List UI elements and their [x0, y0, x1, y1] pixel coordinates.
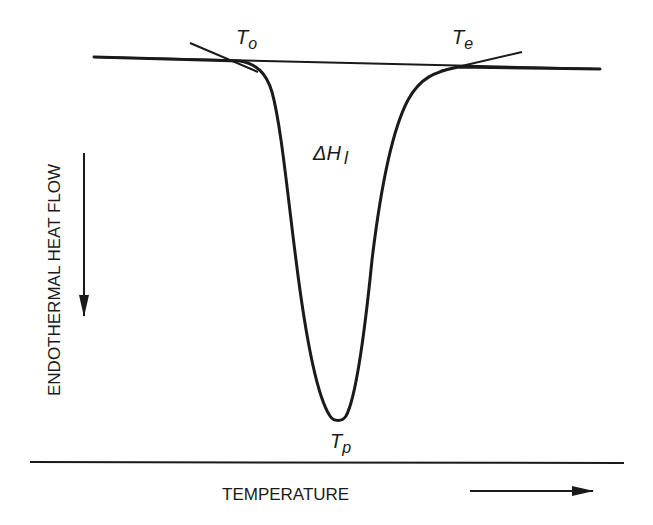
enthalpy-label: ΔHl [312, 142, 349, 168]
x-axis-label: TEMPERATURE [222, 485, 349, 504]
y-axis-label: ENDOTHERMAL HEAT FLOW [45, 164, 64, 396]
heat-flow-curve [94, 57, 600, 421]
dsc-thermogram: To Te ΔHl Tp ENDOTHERMAL HEAT FLOW TEMPE… [0, 0, 653, 525]
onset-label: To [236, 26, 257, 52]
x-axis-line [30, 462, 624, 463]
endset-label: Te [452, 26, 473, 52]
peak-label: Tp [330, 430, 351, 456]
